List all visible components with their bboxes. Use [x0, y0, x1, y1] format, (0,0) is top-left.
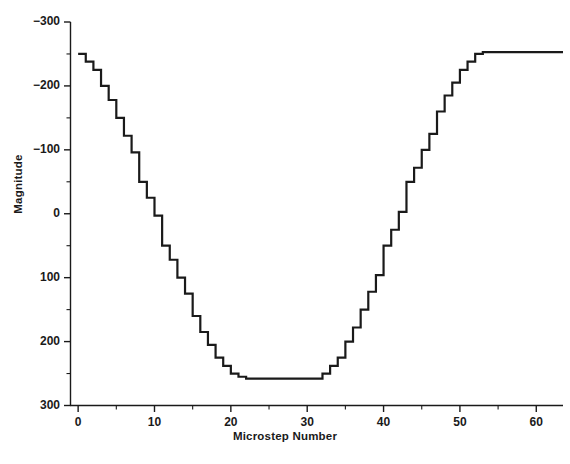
y-axis-ticks [64, 22, 71, 406]
x-tick-label: 50 [437, 415, 483, 429]
axis-lines [70, 22, 563, 406]
x-axis-title: Microstep Number [0, 430, 570, 442]
x-tick-label: 20 [208, 415, 254, 429]
y-tick-label: 300 [14, 398, 60, 412]
x-tick-label: 0 [55, 415, 101, 429]
x-axis-ticks [78, 406, 536, 413]
plot-canvas [0, 0, 570, 464]
y-tick-label: −300 [14, 14, 60, 28]
x-tick-label: 40 [361, 415, 407, 429]
chart-figure: Magnitude Microstep Number 3002001000−10… [0, 0, 570, 464]
x-tick-label: 10 [131, 415, 177, 429]
y-tick-label: −100 [14, 142, 60, 156]
data-series-line [78, 52, 563, 379]
y-tick-label: 100 [14, 270, 60, 284]
x-tick-label: 60 [513, 415, 559, 429]
y-tick-label: 200 [14, 334, 60, 348]
x-tick-label: 30 [284, 415, 330, 429]
y-tick-label: 0 [14, 206, 60, 220]
y-tick-label: −200 [14, 78, 60, 92]
